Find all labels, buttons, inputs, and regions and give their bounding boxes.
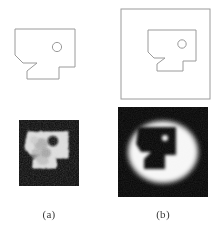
outline-shape-a xyxy=(13,27,81,85)
reconstruction-a-hole xyxy=(48,136,58,146)
caption-a: (a) xyxy=(19,208,79,220)
reconstruction-a xyxy=(19,120,79,186)
caption-b: (b) xyxy=(133,208,193,220)
shape-hole-circle-b xyxy=(178,40,186,48)
figure-root: (a) (b) xyxy=(0,0,217,230)
shape-outline-path-a xyxy=(15,29,75,79)
shape-hole-circle-a xyxy=(52,42,61,51)
shape-outline-path-b xyxy=(148,30,196,71)
reconstruction-b-hole-highlight xyxy=(162,135,168,141)
outline-shape-b xyxy=(120,8,212,101)
reconstruction-b-halo-ring xyxy=(118,107,208,197)
reconstruction-b xyxy=(118,107,208,197)
bounding-frame-b xyxy=(121,9,210,99)
